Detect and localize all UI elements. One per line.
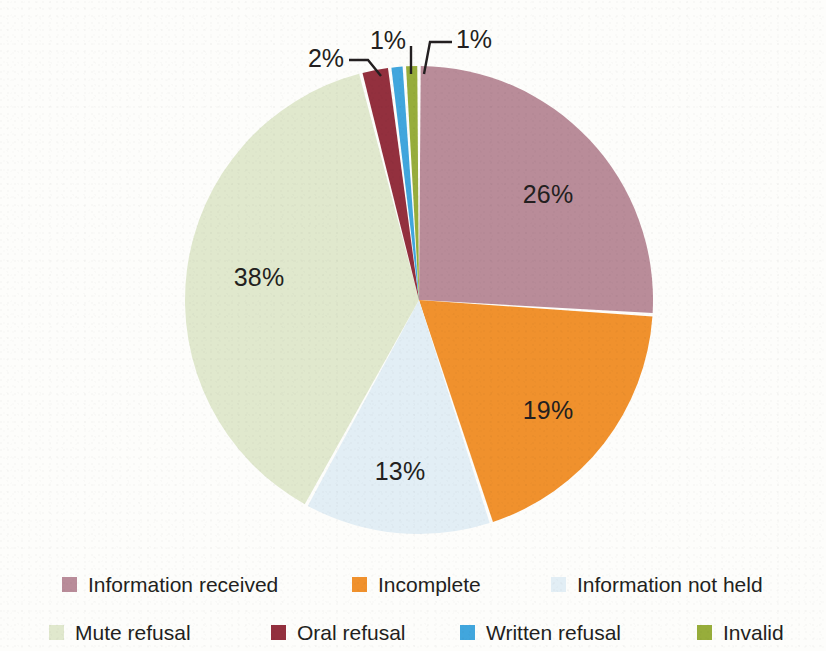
legend-item-information-not-held[interactable]: Information not held — [551, 574, 763, 595]
legend-item-written-refusal[interactable]: Written refusal — [460, 622, 621, 643]
legend-row-bottom: Mute refusal Oral refusal Written refusa… — [0, 612, 826, 651]
legend-row-top: Information received Incomplete Informat… — [0, 564, 826, 604]
slice-label-oral-refusal: 2% — [308, 44, 344, 73]
legend-label-information-not-held: Information not held — [577, 574, 763, 595]
legend-swatch-mute-refusal — [49, 625, 64, 640]
slice-label-invalid: 1% — [456, 25, 492, 54]
legend-label-incomplete: Incomplete — [378, 574, 481, 595]
legend-label-invalid: Invalid — [723, 622, 784, 643]
legend-swatch-incomplete — [352, 577, 367, 592]
legend-item-information-received[interactable]: Information received — [62, 574, 278, 595]
legend-label-oral-refusal: Oral refusal — [297, 622, 406, 643]
pie-plot-area: 26% 19% 13% 38% 2% 1% 1% — [0, 0, 826, 556]
slice-label-information-not-held: 13% — [375, 457, 426, 486]
legend-swatch-oral-refusal — [271, 625, 286, 640]
slice-label-incomplete: 19% — [523, 396, 574, 425]
legend-swatch-information-not-held — [551, 577, 566, 592]
legend-item-mute-refusal[interactable]: Mute refusal — [49, 622, 191, 643]
pie-chart-figure: 26% 19% 13% 38% 2% 1% 1% Information rec… — [0, 0, 826, 651]
legend-label-information-received: Information received — [88, 574, 278, 595]
legend-item-invalid[interactable]: Invalid — [697, 622, 784, 643]
legend-swatch-information-received — [62, 577, 77, 592]
chart-legend: Information received Incomplete Informat… — [0, 556, 826, 651]
legend-item-incomplete[interactable]: Incomplete — [352, 574, 481, 595]
legend-label-written-refusal: Written refusal — [486, 622, 621, 643]
legend-label-mute-refusal: Mute refusal — [75, 622, 191, 643]
legend-swatch-written-refusal — [460, 625, 475, 640]
legend-item-oral-refusal[interactable]: Oral refusal — [271, 622, 406, 643]
slice-label-mute-refusal: 38% — [234, 263, 285, 292]
slice-label-information-received: 26% — [523, 180, 574, 209]
legend-swatch-invalid — [697, 625, 712, 640]
slice-label-written-refusal: 1% — [370, 26, 406, 55]
